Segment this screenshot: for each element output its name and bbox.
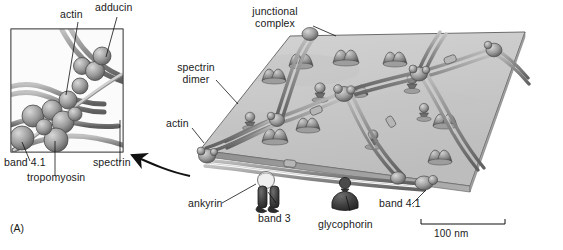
scale-bar-label: 100 nm	[434, 228, 469, 239]
inset-label-band-4-1: band 4.1	[4, 157, 46, 169]
main-label-glycophorin: glycophorin	[318, 219, 373, 231]
spectrin-dimer-line2: dimer	[183, 73, 210, 85]
main-label-actin: actin	[166, 118, 189, 130]
inset-label-actin: actin	[60, 9, 83, 21]
ankyrin-protein	[258, 172, 275, 189]
main-label-spectrin-dimer: spectrin dimer	[170, 62, 222, 85]
junctional-complex-line1: junctional	[252, 5, 297, 17]
inset-panel	[6, 28, 130, 152]
inset-label-adducin: adducin	[95, 2, 132, 14]
panel-letter: (A)	[10, 222, 24, 234]
inset-label-tropomyosin: tropomyosin	[27, 172, 85, 184]
main-label-band-3: band 3	[258, 213, 291, 225]
band41-protein	[415, 175, 438, 190]
junctional-complex-line2: complex	[255, 17, 295, 29]
main-label-band-4-1: band 4.1	[379, 198, 421, 210]
scale-bar	[421, 219, 505, 224]
inset-zoom-arrow	[132, 155, 190, 176]
inset-label-spectrin: spectrin	[93, 157, 131, 169]
band3-protein	[256, 186, 279, 213]
main-label-ankyrin: ankyrin	[188, 198, 223, 210]
main-label-junctional-complex: junctional complex	[239, 6, 311, 29]
spectrin-dimer-line1: spectrin	[177, 61, 215, 73]
figure-erythrocyte-membrane-skeleton: actin adducin band 4.1 tropomyosin spect…	[0, 0, 563, 250]
